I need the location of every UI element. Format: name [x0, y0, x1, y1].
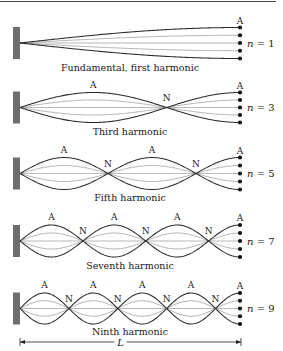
harmonic-number-label: n = 5: [247, 168, 275, 179]
endpoint-dot: [238, 299, 242, 303]
antinode-label: A: [138, 280, 146, 290]
harmonic-number-label: n = 7: [247, 236, 275, 247]
node-label: N: [163, 294, 171, 304]
endpoint-dot: [238, 155, 242, 159]
endpoint-dot: [238, 163, 242, 167]
antinode-label: A: [47, 212, 55, 222]
endpoint-dot: [238, 322, 242, 326]
antinode-label: A: [173, 212, 181, 222]
antinode-label: A: [187, 280, 195, 290]
antinode-label-open-end: A: [236, 81, 244, 91]
endpoint-dot: [238, 113, 242, 117]
endpoint-dot: [238, 291, 242, 295]
harmonic-caption: Fifth harmonic: [94, 192, 166, 203]
arrowhead-left-icon: [20, 340, 25, 344]
closed-end-wall: [13, 27, 20, 59]
endpoint-dot: [238, 306, 242, 310]
length-marker: L: [20, 337, 241, 348]
length-label: L: [116, 337, 124, 348]
harmonic-number-label: n = 3: [247, 102, 275, 113]
harmonic-caption: Third harmonic: [93, 126, 168, 137]
harmonic-panel-n1: An = 1Fundamental, first harmonic: [13, 16, 275, 74]
diagram-canvas: An = 1Fundamental, first harmonicAANn = …: [0, 0, 283, 351]
endpoint-dot: [238, 25, 242, 29]
closed-end-wall: [13, 293, 20, 325]
antinode-label-open-end: A: [236, 213, 244, 223]
node-label: N: [192, 159, 200, 169]
closed-end-wall: [13, 92, 20, 124]
harmonic-caption: Fundamental, first harmonic: [61, 62, 199, 73]
harmonic-panel-n7: AAAANNNn = 7Seventh harmonic: [13, 212, 275, 271]
antinode-label-open-end: A: [236, 16, 244, 26]
endpoint-dot: [238, 239, 242, 243]
antinode-label: A: [89, 80, 97, 90]
antinode-label: A: [89, 280, 97, 290]
closed-end-wall: [13, 158, 20, 190]
harmonic-caption: Ninth harmonic: [92, 326, 168, 337]
endpoint-dot: [238, 314, 242, 318]
node-label: N: [114, 294, 122, 304]
harmonic-panel-n5: AAANNn = 5Fifth harmonic: [13, 145, 275, 204]
node-label: N: [104, 159, 112, 169]
node-label: N: [65, 294, 73, 304]
node-label: N: [79, 226, 87, 236]
antinode-label-open-end: A: [236, 146, 244, 156]
endpoint-dot: [238, 105, 242, 109]
node-label: N: [212, 294, 220, 304]
endpoint-dot: [238, 187, 242, 191]
antinode-label: A: [60, 145, 68, 155]
endpoint-dot: [238, 90, 242, 94]
endpoint-dot: [238, 98, 242, 102]
endpoint-dot: [238, 255, 242, 259]
antinode-label: A: [40, 280, 48, 290]
harmonic-panel-n9: AAAAANNNNn = 9Ninth harmonic: [13, 280, 275, 337]
endpoint-dot: [238, 33, 242, 37]
harmonic-panel-n3: AANn = 3Third harmonic: [13, 80, 275, 138]
node-label: N: [163, 93, 171, 103]
arrowhead-right-icon: [236, 340, 241, 344]
node-label: N: [205, 226, 213, 236]
endpoint-dot: [238, 247, 242, 251]
standing-wave-harmonics-diagram: An = 1Fundamental, first harmonicAANn = …: [0, 0, 283, 351]
harmonic-number-label: n = 9: [247, 303, 275, 314]
antinode-label: A: [110, 212, 118, 222]
harmonic-number-label: n = 1: [247, 38, 275, 49]
endpoint-dot: [238, 56, 242, 60]
antinode-label: A: [148, 145, 156, 155]
node-label: N: [142, 226, 150, 236]
endpoint-dot: [238, 120, 242, 124]
endpoint-dot: [238, 41, 242, 45]
harmonic-caption: Seventh harmonic: [86, 260, 174, 271]
harmonic-panels: An = 1Fundamental, first harmonicAANn = …: [13, 16, 275, 338]
endpoint-dot: [238, 49, 242, 53]
endpoint-dot: [238, 171, 242, 175]
endpoint-dot: [238, 179, 242, 183]
endpoint-dot: [238, 231, 242, 235]
closed-end-wall: [13, 225, 20, 257]
antinode-label-open-end: A: [236, 281, 244, 291]
endpoint-dot: [238, 223, 242, 227]
